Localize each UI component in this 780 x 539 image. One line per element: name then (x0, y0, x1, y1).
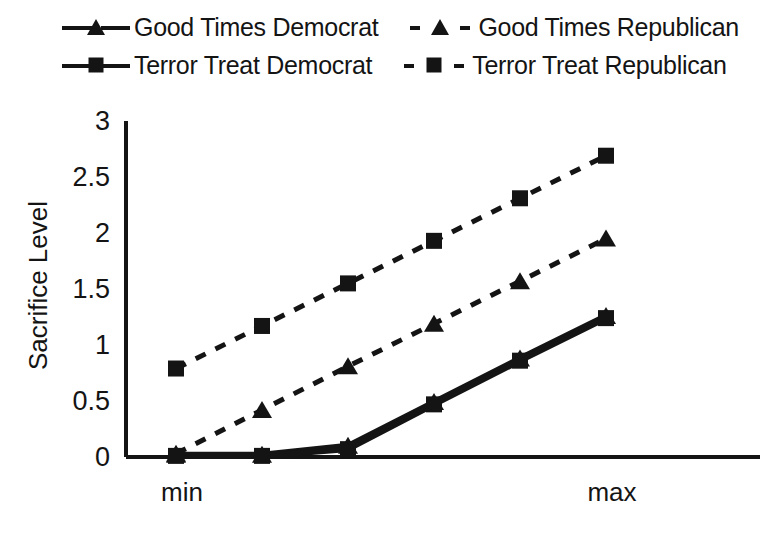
legend-item-terror-treat-republican: Terror Treat Republican (398, 52, 726, 78)
chart-legend: Good Times Democrat Good Times Republica… (0, 0, 780, 100)
data-point-triangle-marker (338, 357, 358, 374)
series-good-times-democrat (166, 307, 616, 463)
legend-key-dashed-square-icon (398, 52, 470, 78)
data-point-square-marker (598, 148, 614, 164)
data-point-triangle-marker (596, 230, 616, 247)
data-point-triangle-marker (510, 272, 530, 289)
data-point-square-marker (512, 190, 528, 206)
legend-row-2: Terror Treat Democrat Terror Treat Repub… (0, 46, 780, 84)
data-point-square-marker (254, 318, 270, 334)
plot-canvas (0, 100, 780, 539)
data-point-triangle-marker (252, 401, 272, 418)
data-point-square-marker (168, 448, 184, 464)
data-series-group (166, 148, 616, 464)
legend-key-solid-square-icon (60, 52, 132, 78)
x-tick-label: max (587, 477, 636, 508)
legend-row-1: Good Times Democrat Good Times Republica… (0, 8, 780, 46)
data-point-square-marker (168, 361, 184, 377)
data-point-square-marker (426, 396, 442, 412)
data-point-triangle-marker (424, 315, 444, 332)
data-point-square-marker (512, 353, 528, 369)
series-line (176, 156, 606, 369)
legend-label-good-times-democrat: Good Times Democrat (134, 15, 378, 40)
x-tick-label: min (161, 477, 203, 508)
data-point-square-marker (426, 233, 442, 249)
legend-label-good-times-republican: Good Times Republican (478, 15, 739, 40)
legend-item-good-times-republican: Good Times Republican (404, 14, 739, 40)
plot-area: Sacrifice Level 00.511.522.53 minmax (0, 100, 780, 539)
legend-key-solid-triangle-icon (60, 14, 132, 40)
series-terror-treat-democrat (168, 310, 614, 464)
legend-label-terror-treat-republican: Terror Treat Republican (472, 53, 726, 78)
data-point-square-marker (254, 448, 270, 464)
data-point-square-marker (340, 275, 356, 291)
sacrifice-level-line-chart: Good Times Democrat Good Times Republica… (0, 0, 780, 539)
legend-key-dashed-triangle-icon (404, 14, 476, 40)
data-point-square-marker (340, 441, 356, 457)
legend-label-terror-treat-democrat: Terror Treat Democrat (134, 53, 372, 78)
axes-group (126, 121, 760, 457)
legend-item-good-times-democrat: Good Times Democrat (60, 14, 378, 40)
legend-item-terror-treat-democrat: Terror Treat Democrat (60, 52, 372, 78)
data-point-square-marker (598, 310, 614, 326)
